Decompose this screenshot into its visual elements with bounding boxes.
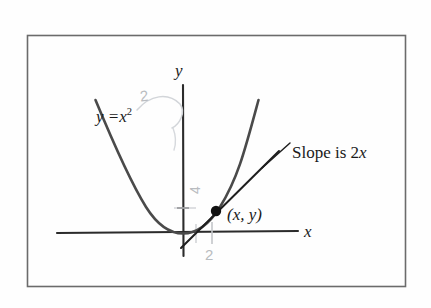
slope-annotation-label: Slope is 2x [292,144,367,161]
point-coordinate-text: (x, y) [227,205,262,224]
slope-leader-line [262,143,290,168]
slope-annotation-prefix: Slope is 2 [292,143,359,162]
pencil-annotation-near-equation: 2 [139,88,149,104]
pencil-squiggle-tail [173,128,175,150]
curve-equation-base: x [119,107,127,126]
figure-container: y =x2 y x Slope is 2x (x, y) 2 4 2 [0,0,431,308]
pencil-annotation-y-axis-tick: 4 [188,186,202,194]
pencil-annotation-x-axis-tick: 2 [205,247,213,262]
y-axis-label: y [175,62,183,79]
point-marker [211,206,221,216]
x-axis-label: x [304,223,312,240]
point-coordinate-label: (x, y) [227,206,262,223]
curve-equation-label: y =x2 [96,108,132,125]
slope-annotation-variable: x [359,143,367,162]
curve-equation-exponent: 2 [127,106,132,117]
curve-equation-lhs: y = [96,107,119,126]
